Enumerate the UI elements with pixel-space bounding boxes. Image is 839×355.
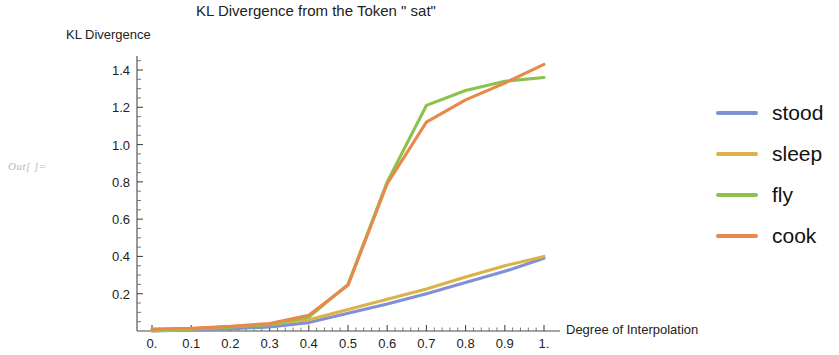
svg-text:0.4: 0.4: [300, 336, 318, 351]
legend-swatch-sleep: [716, 152, 758, 156]
axes: 0.0.10.20.30.40.50.60.70.80.91.0.20.40.6…: [112, 56, 560, 351]
svg-text:0.: 0.: [147, 336, 158, 351]
legend-item-sleep: sleep: [716, 133, 836, 174]
legend-label-stood: stood: [772, 101, 823, 125]
svg-text:0.1: 0.1: [182, 336, 200, 351]
svg-text:0.2: 0.2: [112, 287, 130, 302]
svg-text:0.5: 0.5: [339, 336, 357, 351]
series-line-cook: [152, 64, 544, 329]
svg-text:0.6: 0.6: [112, 212, 130, 227]
svg-text:0.8: 0.8: [457, 336, 475, 351]
svg-text:0.9: 0.9: [496, 336, 514, 351]
series-lines: [152, 64, 544, 331]
svg-text:0.4: 0.4: [112, 249, 130, 264]
svg-text:0.3: 0.3: [261, 336, 279, 351]
legend-label-cook: cook: [772, 224, 816, 248]
series-line-stood: [152, 258, 544, 331]
legend-label-fly: fly: [772, 183, 793, 207]
svg-text:1.4: 1.4: [112, 63, 130, 78]
legend-swatch-cook: [716, 234, 758, 238]
plot-area: 0.0.10.20.30.40.50.60.70.80.91.0.20.40.6…: [0, 0, 839, 355]
svg-text:1.2: 1.2: [112, 100, 130, 115]
svg-text:0.7: 0.7: [417, 336, 435, 351]
series-line-fly: [152, 77, 544, 330]
svg-text:0.6: 0.6: [378, 336, 396, 351]
legend-item-fly: fly: [716, 174, 836, 215]
svg-text:0.2: 0.2: [221, 336, 239, 351]
chart-graphics[interactable]: KL Divergence from the Token " sat" KL D…: [0, 0, 839, 355]
legend-swatch-stood: [716, 111, 758, 115]
legend-item-stood: stood: [716, 92, 836, 133]
legend-item-cook: cook: [716, 215, 836, 256]
chart-legend: stoodsleepflycook: [716, 92, 836, 256]
series-line-sleep: [152, 256, 544, 331]
notebook-output-cell: Out[ ]= KL Divergence from the Token " s…: [0, 0, 839, 355]
svg-text:1.: 1.: [539, 336, 550, 351]
svg-text:1.0: 1.0: [112, 138, 130, 153]
legend-label-sleep: sleep: [772, 142, 822, 166]
legend-swatch-fly: [716, 193, 758, 197]
svg-text:0.8: 0.8: [112, 175, 130, 190]
